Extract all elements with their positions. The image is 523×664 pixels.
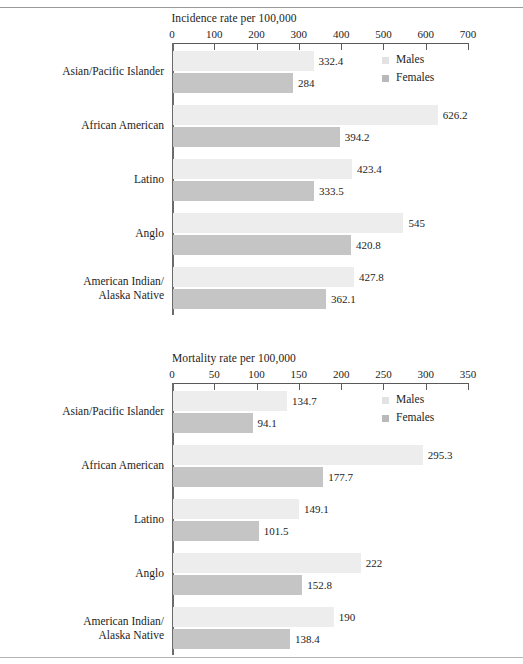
bar-males: 332.4 — [173, 51, 314, 71]
bar-females: 333.5 — [173, 181, 314, 201]
legend-swatch-males-icon — [382, 57, 389, 64]
category-label: American Indian/ Alaska Native — [0, 275, 164, 302]
x-tick-label: 300 — [417, 368, 434, 380]
bar-group: American Indian/ Alaska Native190138.4 — [172, 607, 468, 649]
bar-males: 545 — [173, 213, 403, 233]
bar-males: 423.4 — [173, 159, 352, 179]
bar-group: American Indian/ Alaska Native427.8362.1 — [172, 267, 468, 309]
category-label: Asian/Pacific Islander — [0, 405, 164, 419]
x-tick-label: 700 — [460, 28, 477, 40]
x-tick-label: 100 — [206, 28, 223, 40]
bar-value-label: 222 — [366, 557, 383, 569]
bar-value-label: 149.1 — [304, 503, 329, 515]
bar-value-label: 190 — [339, 611, 356, 623]
bar-females: 362.1 — [173, 289, 326, 309]
bar-value-label: 420.8 — [356, 239, 381, 251]
bar-value-label: 333.5 — [319, 185, 344, 197]
bar-group: African American295.3177.7 — [172, 445, 468, 487]
bar-value-label: 423.4 — [357, 163, 382, 175]
bar-females: 152.8 — [173, 575, 302, 595]
bar-males: 190 — [173, 607, 334, 627]
bar-females: 94.1 — [173, 413, 253, 433]
category-label: Latino — [0, 513, 164, 527]
x-tick-label: 200 — [333, 368, 350, 380]
bar-value-label: 177.7 — [328, 471, 353, 483]
chart-title: Mortality rate per 100,000 — [0, 352, 468, 364]
legend-label-females: Females — [396, 71, 434, 83]
legend-label-males: Males — [396, 393, 424, 405]
bar-females: 138.4 — [173, 629, 290, 649]
x-axis-tick-labels: 050100150200250300350 — [0, 368, 523, 382]
bar-value-label: 394.2 — [345, 131, 370, 143]
bar-value-label: 626.2 — [443, 109, 468, 121]
bar-males: 149.1 — [173, 499, 299, 519]
bar-value-label: 101.5 — [264, 525, 289, 537]
bar-males: 427.8 — [173, 267, 354, 287]
category-label: Anglo — [0, 227, 164, 241]
legend-swatch-males-icon — [382, 397, 389, 404]
category-label: Latino — [0, 173, 164, 187]
legend-swatch-females-icon — [382, 75, 389, 82]
bar-males: 134.7 — [173, 391, 287, 411]
figure-top-rule — [0, 7, 523, 8]
bar-value-label: 427.8 — [359, 271, 384, 283]
x-tick-label: 200 — [248, 28, 265, 40]
bar-males: 626.2 — [173, 105, 438, 125]
x-tick-label: 0 — [169, 28, 175, 40]
bar-value-label: 94.1 — [258, 417, 277, 429]
bar-value-label: 284 — [298, 77, 315, 89]
bar-group: Anglo545420.8 — [172, 213, 468, 255]
bar-group: Anglo222152.8 — [172, 553, 468, 595]
figure-bottom-rule — [0, 657, 523, 658]
x-tick-label: 350 — [460, 368, 477, 380]
x-tick-label: 100 — [248, 368, 265, 380]
chart-title: Incidence rate per 100,000 — [0, 12, 468, 24]
x-axis-tick-mark — [468, 383, 469, 390]
x-axis-tick-labels: 0100200300400500600700 — [0, 28, 523, 42]
category-label: American Indian/ Alaska Native — [0, 615, 164, 642]
legend-label-females: Females — [396, 411, 434, 423]
incidence-rate-chart: Incidence rate per 100,000 0100200300400… — [0, 12, 523, 322]
category-label: African American — [0, 119, 164, 133]
bar-value-label: 134.7 — [292, 395, 317, 407]
bar-value-label: 138.4 — [295, 633, 320, 645]
bar-value-label: 362.1 — [331, 293, 356, 305]
bar-females: 284 — [173, 73, 293, 93]
bar-males: 295.3 — [173, 445, 423, 465]
bar-males: 222 — [173, 553, 361, 573]
bar-group: African American626.2394.2 — [172, 105, 468, 147]
bar-females: 394.2 — [173, 127, 340, 147]
x-tick-label: 600 — [417, 28, 434, 40]
legend-label-males: Males — [396, 53, 424, 65]
bar-females: 101.5 — [173, 521, 259, 541]
category-label: African American — [0, 459, 164, 473]
bar-females: 420.8 — [173, 235, 351, 255]
bar-value-label: 332.4 — [319, 55, 344, 67]
x-axis-tick-mark — [468, 43, 469, 50]
bar-group: Latino423.4333.5 — [172, 159, 468, 201]
plot-area: Asian/Pacific Islander134.794.1African A… — [172, 383, 468, 655]
bar-value-label: 295.3 — [428, 449, 453, 461]
bar-females: 177.7 — [173, 467, 323, 487]
x-tick-label: 400 — [333, 28, 350, 40]
x-tick-label: 300 — [291, 28, 308, 40]
bar-group: Latino149.1101.5 — [172, 499, 468, 541]
x-tick-label: 0 — [169, 368, 175, 380]
mortality-rate-chart: Mortality rate per 100,000 0501001502002… — [0, 352, 523, 652]
bar-value-label: 152.8 — [307, 579, 332, 591]
x-tick-label: 150 — [291, 368, 308, 380]
category-label: Anglo — [0, 567, 164, 581]
bar-value-label: 545 — [408, 217, 425, 229]
x-tick-label: 50 — [209, 368, 220, 380]
plot-area: Asian/Pacific Islander332.4284African Am… — [172, 43, 468, 315]
x-tick-label: 500 — [375, 28, 392, 40]
category-label: Asian/Pacific Islander — [0, 65, 164, 79]
legend-swatch-females-icon — [382, 415, 389, 422]
figure-page: Incidence rate per 100,000 0100200300400… — [0, 0, 523, 664]
x-tick-label: 250 — [375, 368, 392, 380]
